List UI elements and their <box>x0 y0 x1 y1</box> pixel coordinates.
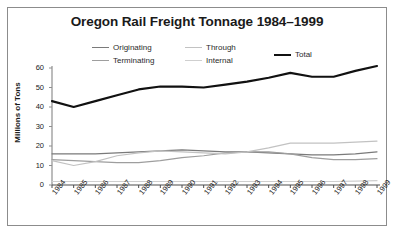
legend-swatch-icon <box>92 47 109 48</box>
legend-label: Terminating <box>113 56 154 65</box>
legend-item-total: Total <box>274 50 312 59</box>
legend-label: Internal <box>206 56 233 65</box>
chart-figure: Oregon Rail Freight Tonnage 1984–1999 Or… <box>0 0 394 233</box>
chart-legend: OriginatingTerminatingThroughInternalTot… <box>92 42 332 68</box>
chart-title: Oregon Rail Freight Tonnage 1984–1999 <box>0 14 394 29</box>
legend-label: Originating <box>113 43 152 52</box>
figure-border <box>7 7 387 226</box>
legend-swatch-icon <box>274 54 291 56</box>
legend-item-internal: Internal <box>185 56 233 65</box>
legend-item-terminating: Terminating <box>92 56 154 65</box>
legend-label: Through <box>206 43 236 52</box>
legend-label: Total <box>295 50 312 59</box>
legend-swatch-icon <box>185 60 202 61</box>
legend-swatch-icon <box>185 47 202 48</box>
legend-swatch-icon <box>92 60 109 61</box>
legend-item-through: Through <box>185 43 236 52</box>
legend-item-originating: Originating <box>92 43 152 52</box>
